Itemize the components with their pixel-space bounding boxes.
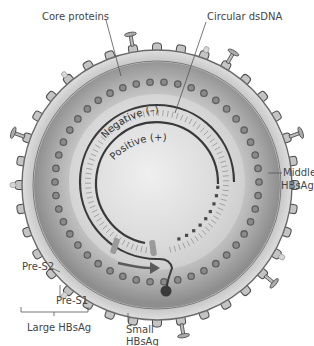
core-protein-dot: [67, 231, 73, 237]
core-protein-dot: [53, 165, 59, 171]
hbv-structure-diagram: Negative (–) Positive (+) Core proteins …: [0, 0, 314, 346]
small-hbsag-label: Small: [126, 324, 154, 335]
core-protein-dot: [60, 219, 66, 225]
middle-hbsag-label-2: HBsAg: [281, 180, 314, 191]
core-protein-dot: [255, 192, 261, 198]
core-protein-dot: [120, 85, 126, 91]
core-protein-dot: [188, 273, 194, 279]
core-protein-dot: [120, 273, 126, 279]
core-protein-dot: [84, 252, 90, 258]
large-hbsag-label: Large HBsAg: [27, 322, 91, 333]
core-protein-dot: [175, 81, 181, 87]
core-protein-dot: [133, 81, 139, 87]
core-protein-dot: [223, 106, 229, 112]
core-protein-dot: [252, 206, 258, 212]
core-protein-dot: [247, 139, 253, 145]
core-protein-dot: [201, 90, 207, 96]
large-hbsag-bracket: [21, 307, 88, 316]
polymerase: [161, 286, 172, 297]
core-protein-dot: [241, 231, 247, 237]
core-protein-dot: [84, 106, 90, 112]
core-protein-dot: [188, 85, 194, 91]
core-protein-dot: [60, 139, 66, 145]
core-protein-dot: [53, 192, 59, 198]
core-protein-dot: [175, 277, 181, 283]
core-protein-dot: [256, 179, 262, 185]
core-protein-dot: [147, 79, 153, 85]
core-protein-dot: [52, 179, 58, 185]
core-protein-dot: [247, 219, 253, 225]
core-protein-dot: [161, 79, 167, 85]
core-protein-dot: [67, 127, 73, 133]
core-protein-dot: [223, 252, 229, 258]
core-protein-dot: [56, 152, 62, 158]
circular-dsdna-label: Circular dsDNA: [207, 11, 282, 22]
core-protein-dot: [133, 277, 139, 283]
core-protein-dot: [252, 152, 258, 158]
core-protein-dot: [241, 127, 247, 133]
pre-s1-label: Pre-S1: [56, 295, 88, 306]
core-protein-dot: [75, 116, 81, 122]
core-protein-dot: [95, 97, 101, 103]
core-protein-dot: [213, 260, 219, 266]
middle-hbsag-label: Middle: [283, 167, 314, 178]
small-hbsag-label-2: HBsAg: [126, 336, 159, 346]
core-protein-dot: [201, 268, 207, 274]
core-protein-dot: [75, 242, 81, 248]
core-protein-dot: [255, 165, 261, 171]
core-protein-dot: [233, 116, 239, 122]
core-proteins-label: Core proteins: [42, 11, 109, 22]
core-protein-dot: [107, 90, 113, 96]
core-protein-dot: [95, 260, 101, 266]
pre-s2-label: Pre-S2: [22, 261, 54, 272]
core-protein-dot: [213, 97, 219, 103]
core-protein-dot: [107, 268, 113, 274]
core-protein-dot: [147, 279, 153, 285]
core-protein-dot: [56, 206, 62, 212]
core-protein-dot: [233, 242, 239, 248]
